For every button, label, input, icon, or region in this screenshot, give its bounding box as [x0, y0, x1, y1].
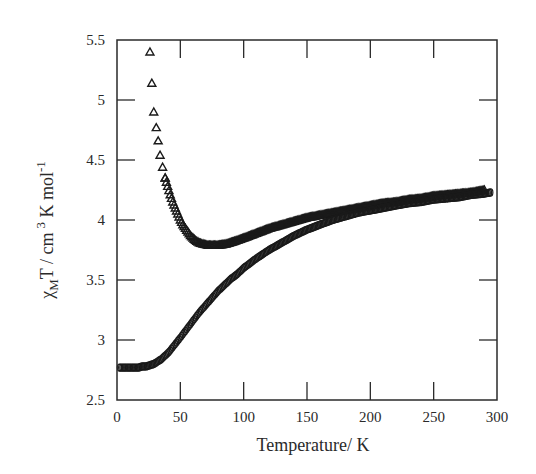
- y-tick-label: 3: [98, 332, 106, 348]
- y-axis-rest: T / cm: [37, 233, 57, 280]
- y-axis-sub: M: [46, 279, 61, 291]
- y-tick-label: 3.5: [86, 272, 105, 288]
- chart: 0501001502002503002.533.544.555.5 Temper…: [0, 0, 536, 474]
- series-triangles: [146, 48, 488, 248]
- x-tick-label: 0: [113, 409, 121, 425]
- y-tick-label: 2.5: [86, 392, 105, 408]
- y-tick-label: 5: [98, 92, 106, 108]
- triangle-marker: [150, 108, 158, 115]
- data-series: [117, 48, 493, 371]
- x-tick-label: 100: [232, 409, 255, 425]
- x-tick-label: 50: [173, 409, 188, 425]
- y-axis-rest2: K mol: [37, 172, 57, 222]
- y-axis-supneg1: -1: [33, 161, 48, 172]
- triangle-marker: [154, 137, 162, 144]
- x-tick-label: 250: [422, 409, 445, 425]
- triangle-marker: [146, 48, 154, 55]
- x-tick-label: 150: [296, 409, 319, 425]
- x-tick-label: 200: [359, 409, 382, 425]
- y-tick-label: 5.5: [86, 32, 105, 48]
- triangle-marker: [159, 163, 167, 170]
- triangle-marker: [152, 124, 160, 131]
- triangle-marker: [148, 79, 156, 86]
- x-tick-label: 300: [486, 409, 509, 425]
- y-axis-chi: χ: [37, 291, 57, 300]
- y-tick-label: 4: [98, 212, 106, 228]
- triangle-marker: [156, 151, 164, 158]
- x-axis-title: Temperature/ K: [256, 435, 369, 455]
- y-axis-title: χMT / cm3 K mol-1: [33, 161, 61, 300]
- y-tick-label: 4.5: [86, 152, 105, 168]
